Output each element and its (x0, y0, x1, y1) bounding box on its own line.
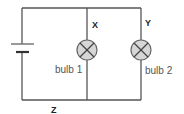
circuit-diagram: bulb 1 bulb 2 X Y Z (0, 0, 184, 114)
bulb-1-label: bulb 1 (55, 64, 83, 75)
bulb-2-icon (131, 40, 151, 60)
point-y-label: Y (145, 18, 151, 28)
point-x-label: X (92, 20, 98, 30)
bulb-1-icon (77, 40, 97, 60)
point-z-label: Z (51, 105, 57, 114)
battery-icon (11, 44, 34, 52)
bulb-2-label: bulb 2 (145, 65, 173, 76)
